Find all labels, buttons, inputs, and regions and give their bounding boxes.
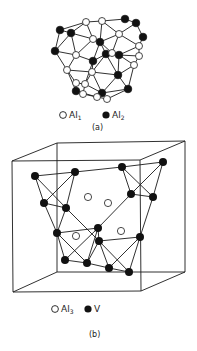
bond-line [44,172,75,203]
al2-atom [67,29,75,37]
v-atom [83,259,91,267]
v-atom [31,172,39,180]
v-atom [136,233,144,241]
v-atom [61,256,69,264]
al1-atom [82,81,89,88]
v-atom [149,193,157,201]
v-atom [53,229,61,237]
al2-atom [51,47,59,55]
al1-atom [64,67,71,74]
v-atom [94,224,102,232]
unit-cell-cube [12,141,185,292]
v-atom [71,168,79,176]
al3-atom [104,199,111,206]
al2-atom [56,26,64,34]
open-circle-icon [52,306,59,313]
v-atom [159,158,167,166]
al1-atom [73,52,80,59]
legend-al2-label: Al2 [112,110,125,121]
cube-edge [13,272,57,292]
al1-atom [136,53,143,60]
v-atom [95,237,103,245]
v-atom [127,190,135,198]
bond-line [99,241,109,268]
al1-atom [89,69,96,76]
bond-line [35,176,66,208]
bond-line [44,203,57,233]
bond-line [66,208,99,241]
al2-atom [114,71,122,79]
v-atom [105,264,113,272]
panel-b-legend: Al3 V [52,304,101,315]
al1-atom [99,18,106,25]
v-atom [118,163,126,171]
legend-v-label: V [94,304,101,314]
cube-edge [12,143,57,161]
v-atom [40,199,48,207]
al2-atom [132,19,140,27]
al1-atom [83,19,90,26]
al2-atom [139,33,147,41]
panel-b-caption: (b) [89,330,100,339]
al1-atom [90,36,97,43]
al1-atom [109,50,116,57]
bond-line [75,167,122,172]
bond-line [99,241,129,272]
filled-circle-icon [102,111,109,118]
al1-atom [94,94,101,101]
al1-atom [80,91,87,98]
bond-line [98,194,131,228]
al2-atom [124,85,132,93]
legend-al3-label: Al3 [61,304,74,315]
bond-line [57,228,98,233]
legend-al1-label: Al1 [69,110,82,121]
al1-atom [104,96,111,103]
al1-atom [116,31,123,38]
filled-circle-icon [84,305,91,312]
bond-line [35,172,75,176]
al3-atom [84,193,91,200]
al1-atom [136,43,143,50]
crystal-structure-figure: Al1 Al2 (a) Al3 V (b) [0,0,197,351]
al2-atom [96,38,104,46]
open-circle-icon [60,112,67,119]
bond-line [122,162,163,167]
panel-a-legend: Al1 Al2 [60,110,125,121]
cube-edge [140,141,185,160]
al1-atom [131,62,138,69]
panel-b-bonds [35,162,163,272]
al1-atom [73,80,80,87]
al2-atom [121,15,129,23]
al3-atom [117,227,124,234]
bond-line [66,172,75,208]
cube-edge [141,272,185,291]
al2-atom [72,87,80,95]
v-atom [125,268,133,276]
panel-a-caption: (a) [92,123,103,132]
al2-atom [115,51,123,59]
bond-line [99,237,140,241]
al3-atom [72,232,79,239]
v-atom [62,204,70,212]
al2-atom [89,57,97,65]
bond-line [140,197,153,237]
